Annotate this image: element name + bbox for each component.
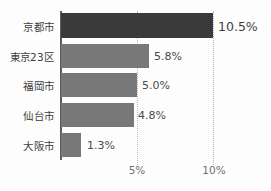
bar-value-kyoto: 10.5% — [218, 11, 258, 41]
bar-row-tokyo23: 東京23区 5.8% — [0, 41, 271, 71]
bar-kyoto — [61, 13, 213, 38]
bar-row-kyoto: 京都市 10.5% — [0, 11, 271, 41]
xtick-label-5-percent: 5% — [129, 164, 146, 176]
bar-row-osaka: 大阪市 1.3% — [0, 130, 271, 160]
category-label-osaka: 大阪市 — [0, 130, 54, 160]
bar-value-sendai: 4.8% — [138, 100, 166, 130]
bar-chart: 京都市 10.5% 東京23区 5.8% 福岡市 5.0% 仙台市 4.8% 大… — [0, 0, 271, 191]
category-label-kyoto: 京都市 — [0, 11, 54, 41]
bar-row-sendai: 仙台市 4.8% — [0, 100, 271, 130]
bar-value-tokyo23: 5.8% — [154, 41, 182, 71]
bar-fukuoka — [61, 73, 137, 97]
bar-value-fukuoka: 5.0% — [142, 70, 170, 100]
bar-sendai — [61, 103, 134, 127]
category-label-sendai: 仙台市 — [0, 100, 54, 130]
category-label-tokyo23: 東京23区 — [0, 41, 54, 71]
category-label-fukuoka: 福岡市 — [0, 70, 54, 100]
bar-osaka — [61, 133, 81, 157]
xtick-label-10-percent: 10% — [202, 164, 225, 176]
bar-row-fukuoka: 福岡市 5.0% — [0, 70, 271, 100]
bar-value-osaka: 1.3% — [87, 130, 115, 160]
bar-tokyo23 — [61, 44, 149, 68]
